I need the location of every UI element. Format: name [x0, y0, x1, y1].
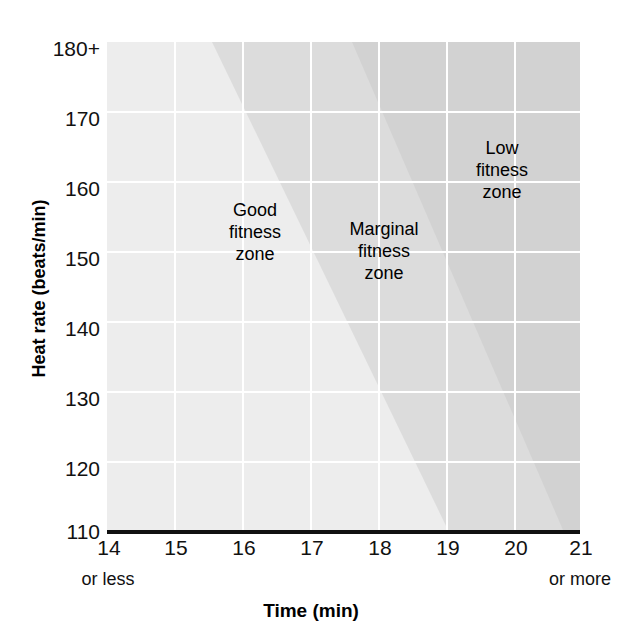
gridline-v-19	[446, 42, 448, 530]
gridline-v-15	[174, 42, 176, 530]
y-tick-140: 140	[0, 318, 100, 339]
gridline-v-20	[514, 42, 516, 530]
x-axis-sublabel-left: or less	[48, 569, 168, 589]
good-zone-line-1: Good	[195, 199, 315, 221]
x-tick-19: 19	[418, 537, 478, 558]
x-axis-line	[107, 530, 580, 534]
y-tick-180: 180+	[0, 38, 100, 59]
marginal-zone-line-3: zone	[319, 262, 449, 284]
good-fitness-zone-label: Good fitness zone	[195, 199, 315, 265]
fitness-zone-chart: Good fitness zone Marginal fitness zone …	[0, 0, 622, 644]
low-zone-line-2: fitness	[447, 159, 557, 181]
gridline-h-120	[107, 461, 580, 463]
y-tick-120: 120	[0, 458, 100, 479]
x-tick-14: 14	[79, 537, 139, 558]
low-zone-line-1: Low	[447, 137, 557, 159]
marginal-zone-line-1: Marginal	[319, 218, 449, 240]
low-fitness-zone-label: Low fitness zone	[447, 137, 557, 203]
gridline-h-170	[107, 111, 580, 113]
x-tick-17: 17	[282, 537, 342, 558]
plot-area: Good fitness zone Marginal fitness zone …	[107, 42, 580, 530]
low-zone-line-3: zone	[447, 181, 557, 203]
x-tick-18: 18	[350, 537, 410, 558]
x-axis-sublabel-right: or more	[520, 569, 622, 589]
x-tick-15: 15	[146, 537, 206, 558]
y-tick-130: 130	[0, 388, 100, 409]
gridline-h-130	[107, 391, 580, 393]
gridline-h-140	[107, 321, 580, 323]
y-tick-150: 150	[0, 248, 100, 269]
x-tick-20: 20	[486, 537, 546, 558]
gridline-v-17	[310, 42, 312, 530]
y-tick-160: 160	[0, 178, 100, 199]
zone-bands	[107, 42, 580, 530]
gridline-v-18	[378, 42, 380, 530]
x-tick-16: 16	[214, 537, 274, 558]
x-tick-21: 21	[551, 537, 611, 558]
y-axis-title: Heat rate (beats/min)	[29, 139, 50, 439]
good-zone-line-2: fitness	[195, 221, 315, 243]
gridline-v-16	[242, 42, 244, 530]
x-axis-title: Time (min)	[0, 600, 622, 622]
good-zone-line-3: zone	[195, 243, 315, 265]
marginal-zone-line-2: fitness	[319, 240, 449, 262]
y-tick-170: 170	[0, 108, 100, 129]
marginal-fitness-zone-label: Marginal fitness zone	[319, 218, 449, 284]
